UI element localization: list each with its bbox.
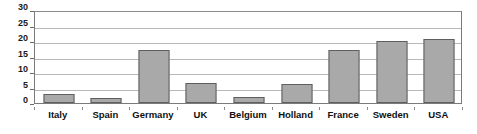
x-tick-mark bbox=[367, 107, 368, 110]
bar-slot bbox=[320, 12, 368, 103]
y-tick-mark bbox=[30, 27, 34, 28]
x-tick-mark bbox=[319, 107, 320, 110]
x-tick-mark bbox=[34, 107, 35, 110]
bar[interactable] bbox=[281, 84, 312, 103]
y-tick-mark bbox=[30, 104, 34, 105]
bar-slot bbox=[83, 12, 131, 103]
x-tick-label: Holland bbox=[278, 109, 313, 120]
y-tick-mark bbox=[30, 11, 34, 12]
x-tick-mark bbox=[272, 107, 273, 110]
x-tick-mark bbox=[462, 107, 463, 110]
x-tick-label: UK bbox=[194, 109, 208, 120]
x-tick-mark bbox=[224, 107, 225, 110]
y-tick-label: 30 bbox=[0, 3, 28, 12]
bar[interactable] bbox=[91, 98, 122, 103]
bar-slot bbox=[273, 12, 321, 103]
bars bbox=[35, 12, 461, 103]
bar[interactable] bbox=[138, 50, 169, 103]
y-tick-label: 15 bbox=[0, 49, 28, 58]
x-tick-mark bbox=[129, 107, 130, 110]
y-tick-mark bbox=[30, 58, 34, 59]
x-tick-label: France bbox=[328, 109, 359, 120]
bar-slot bbox=[368, 12, 416, 103]
bar-chart: 051015202530 ItalySpainGermanyUKBelgiumH… bbox=[0, 0, 477, 134]
bar[interactable] bbox=[233, 97, 264, 103]
x-tick-mark bbox=[414, 107, 415, 110]
x-tick-label: Spain bbox=[92, 109, 118, 120]
bar-slot bbox=[178, 12, 226, 103]
y-tick-label: 0 bbox=[0, 96, 28, 105]
y-tick-label: 5 bbox=[0, 80, 28, 89]
bar[interactable] bbox=[329, 50, 360, 103]
bar[interactable] bbox=[424, 39, 455, 103]
y-tick-mark bbox=[30, 42, 34, 43]
x-tick-label: Germany bbox=[132, 109, 173, 120]
y-tick-mark bbox=[30, 89, 34, 90]
bar[interactable] bbox=[43, 94, 74, 103]
plot-area bbox=[34, 11, 462, 104]
bar[interactable] bbox=[186, 83, 217, 103]
y-tick-label: 20 bbox=[0, 34, 28, 43]
x-tick-label: USA bbox=[428, 109, 448, 120]
x-tick-label: Sweden bbox=[373, 109, 409, 120]
x-tick-mark bbox=[82, 107, 83, 110]
y-axis-tick-labels: 051015202530 bbox=[0, 7, 28, 105]
bar-slot bbox=[35, 12, 83, 103]
x-tick-label: Belgium bbox=[229, 109, 266, 120]
bar-slot bbox=[225, 12, 273, 103]
y-tick-label: 10 bbox=[0, 65, 28, 74]
x-axis-tick-labels: ItalySpainGermanyUKBelgiumHollandFranceS… bbox=[34, 107, 462, 127]
x-tick-mark bbox=[177, 107, 178, 110]
x-tick-label: Italy bbox=[48, 109, 67, 120]
y-tick-mark bbox=[30, 73, 34, 74]
bar[interactable] bbox=[376, 41, 407, 103]
bar-slot bbox=[415, 12, 463, 103]
y-tick-label: 25 bbox=[0, 18, 28, 27]
bar-slot bbox=[130, 12, 178, 103]
